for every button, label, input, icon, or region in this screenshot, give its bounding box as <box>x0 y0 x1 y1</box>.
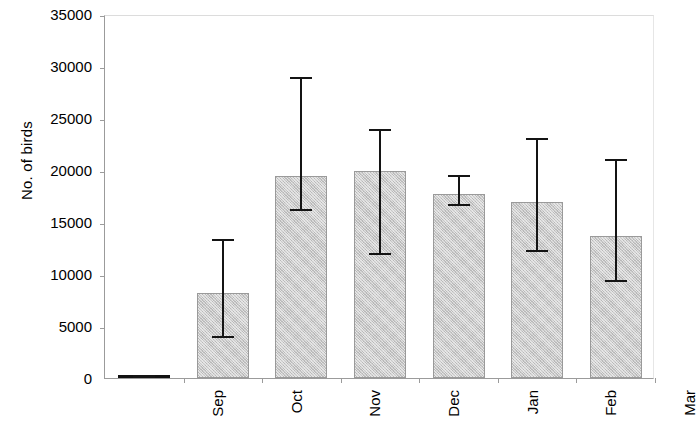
error-bar-stem <box>536 138 538 252</box>
error-bar-cap-bottom <box>369 253 391 255</box>
error-bar-dec <box>369 129 391 255</box>
x-tick-label-jan: Jan <box>525 390 540 425</box>
error-bar-stem <box>458 175 460 206</box>
y-tick-label: 0 <box>0 372 92 386</box>
error-bar-feb <box>526 138 548 252</box>
error-bar-cap-top <box>369 129 391 131</box>
error-bar-cap-bottom <box>448 204 470 206</box>
y-tick-label: 10000 <box>0 268 92 282</box>
y-tick-mark <box>100 120 105 121</box>
y-tick-label: 35000 <box>0 8 92 22</box>
x-tick-mark <box>341 378 342 383</box>
x-tick-mark <box>576 378 577 383</box>
error-bar-cap-bottom <box>605 280 627 282</box>
error-bar-oct <box>212 239 234 339</box>
error-bar-cap-bottom <box>212 336 234 338</box>
y-tick-label: 20000 <box>0 164 92 178</box>
y-tick-mark <box>100 68 105 69</box>
y-tick-mark <box>100 16 105 17</box>
error-bar-cap-bottom <box>133 376 155 378</box>
x-tick-label-feb: Feb <box>603 390 618 425</box>
y-tick-label: 25000 <box>0 112 92 126</box>
error-bar-stem <box>379 129 381 255</box>
error-bar-sep <box>133 375 155 378</box>
error-bar-cap-bottom <box>290 209 312 211</box>
x-tick-label-sep: Sep <box>210 390 225 425</box>
error-bar-nov <box>290 77 312 210</box>
error-bar-cap-bottom <box>526 250 548 252</box>
x-tick-mark <box>419 378 420 383</box>
bar-jan <box>433 194 485 378</box>
y-axis-tick-labels: 05000100001500020000250003000035000 <box>0 0 92 425</box>
error-bar-mar <box>605 159 627 283</box>
x-tick-mark <box>262 378 263 383</box>
y-tick-mark <box>100 224 105 225</box>
error-bar-stem <box>222 239 224 339</box>
x-tick-label-oct: Oct <box>289 390 304 425</box>
y-tick-label: 5000 <box>0 320 92 334</box>
error-bar-cap-top <box>290 77 312 79</box>
error-bar-cap-top <box>212 239 234 241</box>
error-bar-stem <box>300 77 302 210</box>
error-bar-cap-top <box>526 138 548 140</box>
y-tick-mark <box>100 276 105 277</box>
y-tick-label: 30000 <box>0 60 92 74</box>
x-tick-label-dec: Dec <box>446 390 461 425</box>
x-tick-mark <box>498 378 499 383</box>
error-bar-cap-top <box>605 159 627 161</box>
y-tick-label: 15000 <box>0 216 92 230</box>
x-tick-mark <box>184 378 185 383</box>
y-tick-mark <box>100 172 105 173</box>
plot-area <box>104 15 654 379</box>
error-bar-stem <box>615 159 617 283</box>
x-tick-label-nov: Nov <box>367 390 382 425</box>
y-tick-mark <box>100 328 105 329</box>
x-tick-mark <box>655 378 656 383</box>
error-bar-cap-top <box>448 175 470 177</box>
x-tick-label-mar: Mar <box>682 390 697 425</box>
error-bar-jan <box>448 175 470 206</box>
